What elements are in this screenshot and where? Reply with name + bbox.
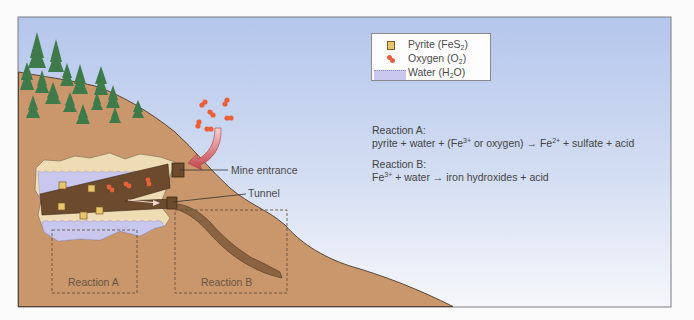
reaction-a-title: Reaction A: bbox=[372, 124, 426, 136]
reaction-b-title: Reaction B: bbox=[372, 158, 426, 170]
tunnel-label: Tunnel bbox=[248, 187, 280, 199]
legend: Pyrite (FeS2) Oxygen (O2) Water (H2O) bbox=[371, 33, 491, 81]
pyrite-cube-icon bbox=[59, 182, 66, 189]
reaction-b-zone-label: Reaction B bbox=[201, 276, 252, 288]
acid-mine-drainage-diagram: Mine entrance Tunnel Reaction A Reaction… bbox=[0, 0, 694, 320]
pyrite-cube-icon bbox=[96, 207, 103, 214]
reaction-arrow-icon: → bbox=[526, 137, 537, 149]
mine-entrance-label: Mine entrance bbox=[231, 164, 298, 176]
reaction-a-equation: pyrite + water + (Fe3+ or oxygen) → Fe2+… bbox=[372, 137, 634, 149]
reaction-a-zone-label: Reaction A bbox=[68, 276, 119, 288]
pyrite-cube-icon bbox=[88, 185, 95, 192]
pyrite-cube-icon bbox=[58, 203, 65, 210]
pyrite-cube-icon bbox=[387, 41, 395, 50]
pyrite-cube-icon bbox=[80, 212, 87, 219]
reaction-arrow-icon: → bbox=[433, 171, 444, 183]
water-wave-icon bbox=[374, 70, 406, 80]
tunnel-portal bbox=[167, 197, 177, 209]
reaction-b-equation: Fe3+ + water → iron hydroxides + acid bbox=[372, 171, 549, 183]
